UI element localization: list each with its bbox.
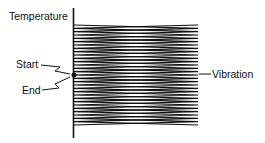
end-label: End — [22, 85, 41, 96]
start-arrow — [41, 65, 70, 74]
vibration-zigzag-lines — [74, 25, 198, 125]
start-label: Start — [16, 59, 38, 70]
vibration-label: Vibration — [212, 69, 253, 80]
end-arrow — [42, 77, 70, 90]
temperature-label: Temperature — [9, 11, 68, 22]
start-point-dot — [72, 73, 77, 78]
